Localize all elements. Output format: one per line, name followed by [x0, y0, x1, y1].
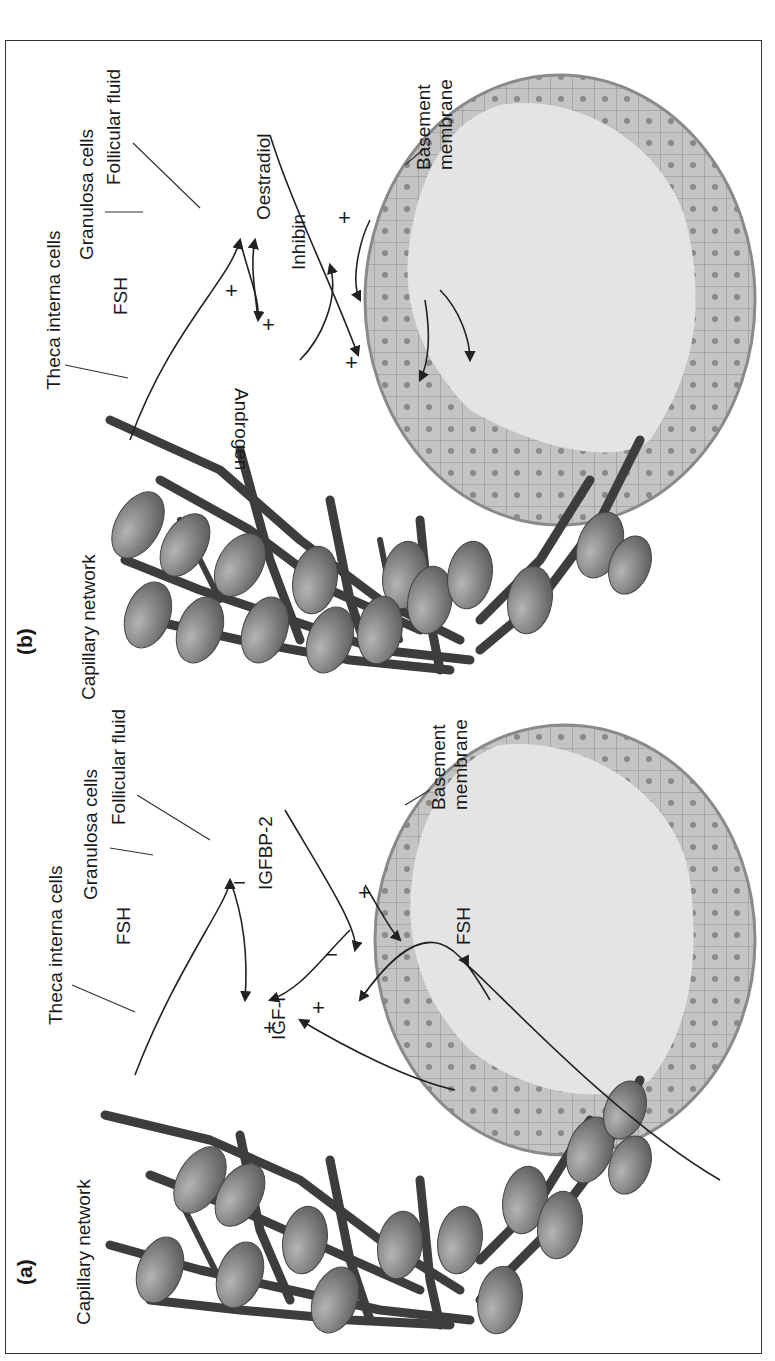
- inhibin-label: Inhibin: [288, 214, 309, 270]
- panel-b-label: (b): [13, 628, 36, 655]
- minus-sign: −: [233, 870, 246, 895]
- panel-b-basement-membrane-line1: Basement: [413, 84, 434, 170]
- androgen-label: Androgen: [231, 388, 252, 470]
- plus-sign: +: [225, 278, 238, 303]
- plus-sign: +: [312, 995, 325, 1020]
- minus-sign: −: [325, 942, 338, 967]
- oestradiol-label: Oestradiol: [253, 133, 274, 220]
- igfbp2-label: IGFBP-2: [255, 816, 276, 890]
- panel-a-theca-interna-label: Theca interna cells: [45, 866, 66, 1025]
- panel-b-basement-membrane-line2: membrane: [435, 79, 456, 170]
- panel-b-follicular-fluid-label: Follicular fluid: [103, 69, 124, 185]
- panel-a-basement-membrane-line2: membrane: [450, 719, 471, 810]
- plus-sign: +: [345, 350, 358, 375]
- plus-sign: +: [263, 1015, 276, 1040]
- plus-sign: +: [358, 880, 371, 905]
- panel-a-fsh-top-label: FSH: [113, 907, 134, 945]
- panel-a-fsh-bottom-label: FSH: [453, 907, 474, 945]
- panel-a-granulosa-label: Granulosa cells: [80, 769, 101, 900]
- panel-b: (b) Capillary network Theca interna cell…: [13, 69, 755, 700]
- panel-b-theca-interna-label: Theca interna cells: [43, 231, 64, 390]
- panel-a-label: (a): [13, 1259, 36, 1285]
- panel-a-capillary-network-label: Capillary network: [73, 1179, 94, 1325]
- panel-a-basement-membrane-line1: Basement: [428, 724, 449, 810]
- plus-sign: +: [262, 312, 275, 337]
- plus-sign: +: [338, 205, 351, 230]
- panel-a-follicular-fluid-label: Follicular fluid: [108, 709, 129, 825]
- follicle-diagram: (b) Capillary network Theca interna cell…: [0, 0, 775, 1361]
- panel-b-capillary-network-label: Capillary network: [78, 554, 99, 700]
- panel-a: (a) Capillary network Theca interna cell…: [13, 709, 755, 1340]
- panel-b-fsh-label: FSH: [110, 277, 131, 315]
- panel-b-granulosa-label: Granulosa cells: [76, 129, 97, 260]
